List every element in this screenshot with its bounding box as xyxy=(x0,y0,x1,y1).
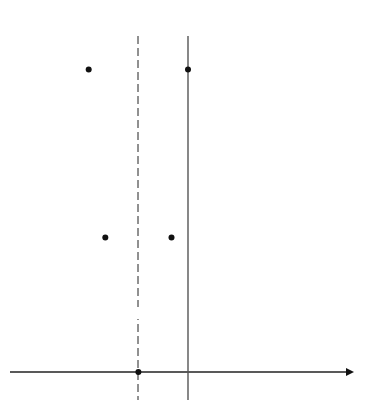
point-m5-8 xyxy=(102,235,108,241)
point-vertex xyxy=(135,369,141,375)
parabola-chart xyxy=(0,0,376,418)
point-m6-18 xyxy=(86,67,92,73)
axes xyxy=(10,36,354,400)
point-0-18 xyxy=(185,67,191,73)
point-m1-8 xyxy=(169,235,175,241)
x-axis-arrow-icon xyxy=(346,368,354,376)
sym-label-bg xyxy=(126,307,152,319)
